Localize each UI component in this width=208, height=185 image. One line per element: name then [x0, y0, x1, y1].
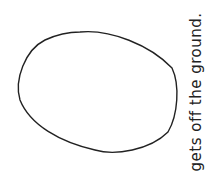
oval-outline	[18, 32, 177, 153]
oval-drawing	[0, 0, 208, 185]
caption-text: gets off the ground.	[187, 13, 205, 172]
